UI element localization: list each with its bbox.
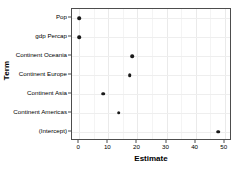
- data-point: [117, 111, 121, 115]
- gridline-horizontal-major: [72, 113, 230, 114]
- y-axis-tick-label: Continent Europe: [19, 71, 67, 77]
- x-axis-tick-label: 10: [104, 144, 111, 150]
- y-axis-tick-label: (Intercept): [39, 127, 67, 133]
- gridline-vertical-minor: [181, 9, 182, 139]
- data-point: [128, 73, 132, 77]
- gridline-vertical-major: [79, 9, 80, 139]
- y-axis-tick-label: gdp Percap: [35, 33, 67, 39]
- gridline-vertical-major: [167, 9, 168, 139]
- y-axis-title-text: Term: [3, 60, 12, 79]
- gridline-horizontal-major: [72, 18, 230, 19]
- gridline-vertical-major: [137, 9, 138, 139]
- x-axis-ticks: 01020304050: [71, 140, 231, 154]
- gridline-vertical-minor: [152, 9, 153, 139]
- gridline-vertical-minor: [210, 9, 211, 139]
- y-axis-tick-label: Continent Oceania: [16, 52, 67, 58]
- y-axis-tick-label: Continent Americas: [13, 109, 67, 115]
- data-point: [216, 130, 220, 134]
- x-axis-tick-label: 20: [133, 144, 140, 150]
- dot-plot-figure: Term Popgdp PercapContinent OceaniaConti…: [0, 0, 239, 175]
- y-axis-tick-label: Continent Asia: [27, 90, 67, 96]
- gridline-horizontal-major: [72, 94, 230, 95]
- data-point: [130, 54, 134, 58]
- data-point: [77, 35, 81, 39]
- data-point: [77, 17, 81, 21]
- y-axis-tick-label: Pop: [56, 14, 67, 20]
- y-axis-tick-labels: Popgdp PercapContinent OceaniaContinent …: [12, 8, 71, 140]
- gridline-vertical-major: [108, 9, 109, 139]
- x-axis-tick-label: 0: [77, 144, 80, 150]
- gridline-vertical-minor: [123, 9, 124, 139]
- x-axis-title: Estimate: [71, 154, 231, 163]
- gridline-horizontal-major: [72, 132, 230, 133]
- plot-panel: [71, 8, 231, 140]
- data-point: [101, 92, 105, 96]
- gridline-horizontal-major: [72, 37, 230, 38]
- x-axis-tick-label: 40: [191, 144, 198, 150]
- gridline-horizontal-major: [72, 56, 230, 57]
- gridline-horizontal-major: [72, 75, 230, 76]
- x-axis-tick-label: 30: [162, 144, 169, 150]
- gridline-vertical-minor: [94, 9, 95, 139]
- x-axis-tick-label: 50: [220, 144, 227, 150]
- gridline-vertical-major: [225, 9, 226, 139]
- gridline-vertical-major: [196, 9, 197, 139]
